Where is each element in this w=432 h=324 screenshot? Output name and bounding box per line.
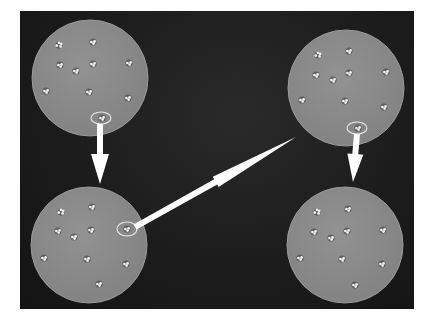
- colony: [314, 51, 321, 58]
- colony: [338, 255, 345, 262]
- culture-plate-bottom-left: [31, 187, 147, 303]
- colony: [380, 103, 387, 110]
- colony: [95, 280, 102, 287]
- colony: [313, 208, 320, 215]
- colony: [87, 226, 94, 233]
- colony: [298, 96, 305, 103]
- colony: [98, 114, 105, 121]
- colony: [354, 124, 361, 131]
- colony: [378, 260, 385, 267]
- figure-canvas: [0, 0, 432, 324]
- colony: [382, 68, 389, 75]
- colony: [296, 254, 303, 261]
- colony: [89, 38, 96, 45]
- colony: [341, 97, 348, 104]
- colony: [88, 203, 95, 210]
- colony: [56, 61, 63, 68]
- colony: [312, 71, 319, 78]
- colony: [344, 205, 351, 212]
- arrow-diagonal-icon: [134, 137, 297, 230]
- colony: [124, 94, 131, 101]
- colony: [123, 225, 130, 232]
- colony: [89, 60, 96, 67]
- colony: [329, 76, 336, 83]
- colony: [55, 41, 62, 48]
- plates-layer: [31, 20, 404, 303]
- colony: [327, 234, 334, 241]
- colony: [122, 260, 129, 267]
- colony: [40, 254, 47, 261]
- colony: [310, 228, 317, 235]
- colony: [42, 87, 49, 94]
- culture-plate-top-right: [288, 30, 404, 146]
- colony: [85, 88, 92, 95]
- colony: [343, 227, 350, 234]
- plates-diagram: [0, 0, 432, 324]
- colony: [345, 69, 352, 76]
- culture-plate-bottom-right: [287, 187, 403, 303]
- colony: [345, 47, 352, 54]
- colony: [125, 59, 132, 66]
- colony: [351, 281, 358, 288]
- colony: [83, 255, 90, 262]
- colony: [54, 227, 61, 234]
- colony: [72, 67, 79, 74]
- colony: [57, 208, 64, 215]
- culture-plate-top-left: [32, 20, 148, 136]
- colony: [70, 233, 77, 240]
- colony: [379, 226, 386, 233]
